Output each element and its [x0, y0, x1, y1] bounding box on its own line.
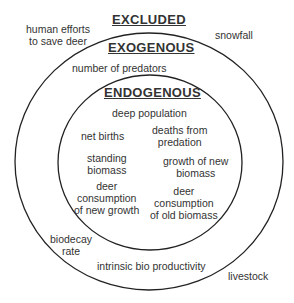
- label-snowfall: snowfall: [215, 29, 253, 41]
- label-biodecay-rate: biodecay rate: [50, 233, 92, 257]
- excluded-title: EXCLUDED: [112, 12, 186, 27]
- label-standing-biomass: standing biomass: [87, 152, 127, 176]
- label-growth-of-new-biomass: growth of new biomass: [163, 155, 228, 179]
- label-number-of-predators: number of predators: [72, 62, 167, 74]
- label-intrinsic-bio-productivity: intrinsic bio productivity: [97, 260, 206, 272]
- label-livestock: livestock: [228, 270, 268, 282]
- label-human-efforts: human efforts to save deer: [26, 23, 90, 47]
- label-deep-population: deep population: [112, 107, 187, 119]
- label-net-births: net births: [81, 130, 124, 142]
- label-deer-consumption-old-biomass: deer consumption of old biomass: [150, 185, 218, 221]
- endogenous-title: ENDOGENOUS: [104, 85, 201, 100]
- exogenous-title: EXOGENOUS: [108, 40, 195, 55]
- label-deaths-from-predation: deaths from predation: [152, 124, 207, 148]
- label-deer-consumption-new-growth: deer consumption of new growth: [74, 180, 139, 216]
